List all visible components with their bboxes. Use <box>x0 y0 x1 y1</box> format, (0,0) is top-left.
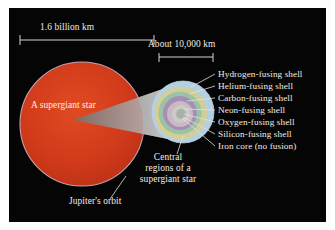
scale-bar-outer <box>20 35 154 45</box>
callout-label-oxygen: Oxygen-fusing shell <box>218 117 295 127</box>
central-regions-line-3: supergiant star <box>125 174 211 185</box>
callout-label-hydrogen: Hydrogen-fusing shell <box>218 69 303 79</box>
callout-label-neon: Neon-fusing shell <box>218 105 285 115</box>
scale-label-outer: 1.6 billion km <box>40 22 94 33</box>
central-regions-line-1: Central <box>125 152 211 163</box>
leader-hydrogen <box>191 74 215 87</box>
callout-label-helium: Helium-fusing shell <box>218 81 293 91</box>
callout-label-iron-core: Iron core (no fusion) <box>218 141 296 151</box>
scale-label-inner: About 10,000 km <box>148 39 215 50</box>
supergiant-star-label: A supergiant star <box>31 100 96 111</box>
scale-bar-inner <box>159 53 213 62</box>
callout-label-silicon: Silicon-fusing shell <box>218 129 292 139</box>
figure-root: 1.6 billion km About 10,000 km A supergi… <box>0 0 335 230</box>
central-regions-line-2: regions of a <box>125 163 211 174</box>
central-regions-label: Central regions of a supergiant star <box>125 152 211 185</box>
diagram-plate: 1.6 billion km About 10,000 km A supergi… <box>9 8 326 222</box>
jupiter-orbit-label: Jupiter's orbit <box>69 196 121 207</box>
callout-label-carbon: Carbon-fusing shell <box>218 93 293 103</box>
